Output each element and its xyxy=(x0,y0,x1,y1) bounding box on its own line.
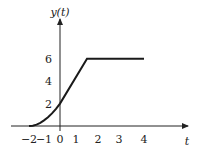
x-tick-label: −2 xyxy=(21,133,37,146)
x-tick-label: 3 xyxy=(116,133,123,146)
y-tick-label: 4 xyxy=(45,75,52,88)
x-tick-label: 0 xyxy=(57,133,64,146)
y-tick-label: 6 xyxy=(45,53,52,66)
y-tick-label: 2 xyxy=(45,98,52,111)
y-axis-label: y(t) xyxy=(49,6,69,19)
x-tick-label: 2 xyxy=(95,133,102,146)
series-line-yt xyxy=(29,59,144,126)
x-tick-label: 4 xyxy=(141,133,148,146)
x-tick-label: 1 xyxy=(73,133,80,146)
chart: −2−101234246ty(t) xyxy=(0,0,199,154)
x-tick-label: −1 xyxy=(36,133,52,146)
x-axis-label: t xyxy=(185,135,190,148)
